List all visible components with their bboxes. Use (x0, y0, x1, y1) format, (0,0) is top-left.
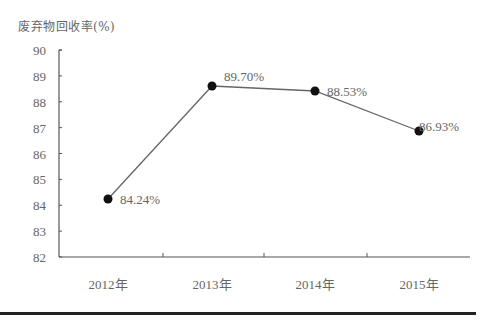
data-point-label: 89.70% (224, 69, 264, 84)
y-tick-label: 89 (33, 69, 46, 84)
y-tick-label: 87 (33, 121, 47, 136)
x-tick-label: 2013年 (193, 277, 232, 292)
y-tick-label: 84 (33, 198, 47, 213)
data-point-label: 84.24% (120, 192, 160, 207)
data-point-marker (104, 195, 113, 204)
y-tick-label: 83 (33, 224, 46, 239)
x-tick-label: 2015年 (400, 277, 439, 292)
data-point-marker (208, 82, 217, 91)
data-point-label: 86.93% (419, 119, 459, 134)
data-point-marker (311, 87, 320, 96)
bottom-divider (0, 312, 476, 315)
data-point-label: 88.53% (327, 84, 367, 99)
y-tick-label: 82 (33, 250, 46, 265)
y-tick-label: 86 (33, 147, 47, 162)
series-line (108, 86, 419, 199)
line-chart: 828384858687888990 2012年2013年2014年2015年 … (0, 0, 490, 321)
y-tick-label: 88 (33, 95, 46, 110)
x-tick-label: 2014年 (296, 277, 335, 292)
y-tick-label: 90 (33, 43, 46, 58)
y-tick-label: 85 (33, 172, 46, 187)
x-tick-label: 2012年 (89, 277, 128, 292)
